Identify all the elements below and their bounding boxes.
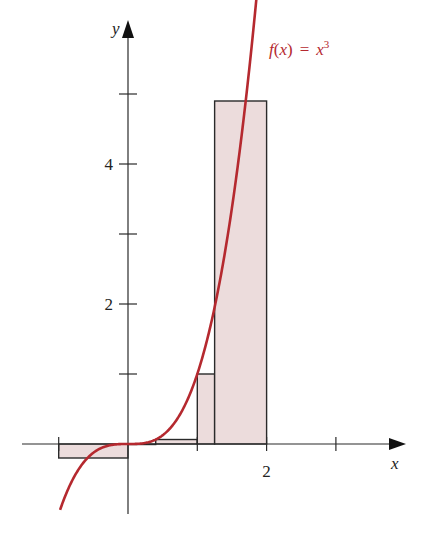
y-axis-arrow-icon: [122, 20, 134, 38]
y-tick-label: 4: [105, 155, 114, 174]
riemann-sum-chart: 224 y x f(x)=x3: [0, 0, 422, 535]
x-tick-label: 2: [262, 462, 271, 481]
function-label: f(x)=x3: [269, 38, 330, 59]
y-axis-label: y: [110, 19, 120, 38]
riemann-rectangles: [59, 101, 267, 458]
riemann-rectangle: [197, 374, 214, 444]
y-tick-label: 2: [105, 295, 114, 314]
x-axis-arrow-icon: [389, 438, 406, 450]
riemann-rectangle: [156, 440, 198, 444]
x-axis-label: x: [390, 454, 399, 473]
riemann-rectangle: [59, 444, 128, 458]
